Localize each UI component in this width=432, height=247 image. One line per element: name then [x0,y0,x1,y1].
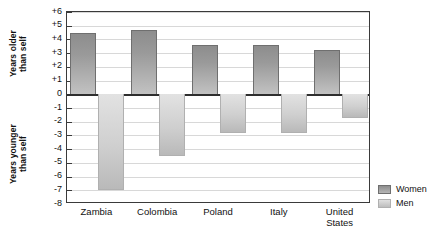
y-tick-label: -2 [38,116,62,125]
y-tick-label: -1 [38,103,62,112]
bar-colombia-women [131,30,157,94]
y-axis-caption-positive: Years older than self [8,14,32,94]
y-tick-label: -8 [38,199,62,208]
y-tick-mark [67,122,72,123]
y-tick-label: 0 [38,89,62,98]
bar-united-states-women [314,50,340,94]
y-tick-label: +2 [38,61,62,70]
y-tick-mark [67,108,72,109]
y-tick-label: -4 [38,144,62,153]
y-tick-mark [67,190,72,191]
y-tick-mark [67,135,72,136]
x-label-colombia: Colombia [123,206,191,217]
y-tick-label: +6 [38,7,62,16]
legend-swatch-icon [378,199,391,208]
y-tick-label: +5 [38,20,62,29]
y-tick-label: +3 [38,48,62,57]
y-tick-mark [67,26,72,27]
legend-item-men[interactable]: Men [378,198,432,208]
gridline [67,190,369,191]
legend: WomenMen [378,184,432,212]
legend-label: Men [396,198,414,208]
gridline [67,39,369,40]
y-axis-caption-negative: Years younger than self [8,108,32,200]
x-label-zambia: Zambia [62,206,130,217]
x-label-poland: Poland [184,206,252,217]
y-axis-tick-labels: +6+5+4+3+2+10-1-2-3-4-5-6-7-8 [36,0,62,247]
plot-area [66,11,370,203]
bar-united-states-men [342,94,368,117]
gridline [67,26,369,27]
y-tick-label: -5 [38,157,62,166]
chart-container: Years older than self Years younger than… [0,0,432,247]
y-tick-mark [67,177,72,178]
y-tick-label: -6 [38,171,62,180]
y-tick-label: -3 [38,130,62,139]
bar-italy-women [253,45,279,94]
legend-label: Women [396,184,427,194]
gridline [67,12,369,13]
y-tick-label: -7 [38,185,62,194]
y-tick-label: +4 [38,34,62,43]
bar-poland-men [220,94,246,132]
x-label-italy: Italy [245,206,313,217]
bar-zambia-women [70,33,96,95]
bar-colombia-men [159,94,185,156]
y-tick-mark [67,149,72,150]
bar-italy-men [281,94,307,132]
bar-zambia-men [98,94,124,190]
legend-item-women[interactable]: Women [378,184,432,194]
bar-poland-women [192,45,218,94]
legend-swatch-icon [378,185,391,194]
y-tick-mark [67,12,72,13]
y-tick-mark [67,163,72,164]
x-label-united-states: United States [306,206,374,228]
y-tick-label: +1 [38,75,62,84]
